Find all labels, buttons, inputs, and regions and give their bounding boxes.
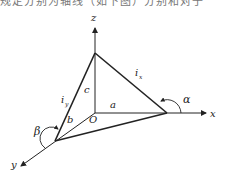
edge-iy-label: i y	[61, 94, 69, 108]
beta-angle: β	[33, 125, 58, 148]
svg-text:y: y	[64, 100, 69, 108]
intercept-diagram: z x y c a b O i x i y α β	[0, 0, 225, 179]
svg-text:i: i	[61, 94, 64, 105]
svg-text:i: i	[135, 67, 138, 78]
segment-a-label: a	[110, 99, 116, 110]
z-axis-label: z	[90, 12, 97, 23]
segment-c-label: c	[84, 84, 90, 95]
segment-b-label: b	[67, 114, 73, 125]
y-axis: y	[10, 113, 95, 170]
x-axis-label: x	[210, 108, 216, 119]
alpha-angle: α	[161, 93, 191, 113]
origin-label: O	[89, 114, 97, 125]
edge-ix-label: i x	[135, 67, 143, 80]
svg-text:x: x	[139, 73, 143, 80]
intercept-triangle	[55, 53, 167, 141]
alpha-label: α	[183, 93, 191, 106]
beta-label: β	[33, 125, 40, 138]
y-axis-label: y	[10, 159, 17, 170]
